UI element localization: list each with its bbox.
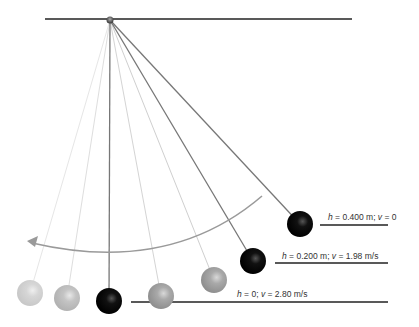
ghost-bob-left xyxy=(54,285,80,311)
label-bottom-position: h = 0; v = 2.80 m/s xyxy=(237,289,307,299)
ghost-bob-right-1 xyxy=(148,283,174,309)
label-middle-position: h = 0.200 m; v = 1.98 m/s xyxy=(282,251,378,261)
bob-middle xyxy=(240,248,266,274)
bob-bottom xyxy=(96,288,122,314)
label-top-position: h = 0.400 m; v = 0 xyxy=(328,212,397,222)
pivot-point xyxy=(107,17,114,24)
bob-top xyxy=(287,211,313,237)
ghost-bob-right-2 xyxy=(201,267,227,293)
ghost-bob-far-left xyxy=(17,280,43,306)
pendulum-diagram xyxy=(0,0,419,327)
